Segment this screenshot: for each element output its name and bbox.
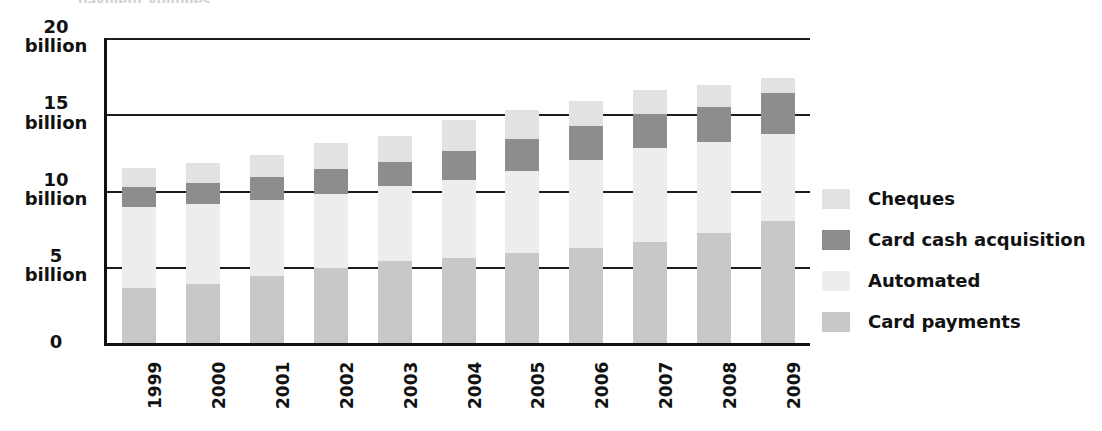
bar-group-2004[interactable] <box>442 120 476 343</box>
bar-segment-card-payments-2004[interactable] <box>442 258 476 343</box>
legend-item-card-cash-acquisition[interactable]: Card cash acquisition <box>822 219 1098 260</box>
bar-segment-cheques-2001[interactable] <box>250 155 284 176</box>
bar-segment-card-cash-acquisition-2001[interactable] <box>250 177 284 200</box>
legend-label-cheques: Cheques <box>868 188 955 209</box>
x-tick-label-text: 2001 <box>275 362 292 409</box>
bar-segment-cheques-2008[interactable] <box>697 85 731 106</box>
bar-segment-cheques-2009[interactable] <box>761 78 795 93</box>
y-tick-label-10: 10billion <box>14 170 98 209</box>
x-tick-label-text: 2007 <box>658 362 675 409</box>
bar-group-1999[interactable] <box>122 168 156 343</box>
bar-segment-cheques-1999[interactable] <box>122 168 156 188</box>
x-tick-label-text: 2005 <box>530 362 547 409</box>
bar-group-2000[interactable] <box>186 163 220 343</box>
x-tick-label-2002: 2002 <box>314 349 348 411</box>
bar-segment-automated-2005[interactable] <box>505 171 539 253</box>
x-tick-label-text: 2008 <box>722 362 739 409</box>
bar-segment-automated-2006[interactable] <box>569 160 603 248</box>
x-tick-label-text: 2002 <box>339 362 356 409</box>
x-tick-label-2007: 2007 <box>633 349 667 411</box>
bar-segment-card-payments-2005[interactable] <box>505 253 539 343</box>
bar-segment-automated-2003[interactable] <box>378 186 412 261</box>
x-tick-label-text: 2009 <box>786 362 803 409</box>
bar-segment-card-payments-2006[interactable] <box>569 248 603 343</box>
y-tick-unit: billion <box>14 113 98 132</box>
legend-item-cheques[interactable]: Cheques <box>822 178 1098 219</box>
y-tick-value: 5 <box>14 246 98 265</box>
legend-swatch-cheques <box>822 189 850 209</box>
bar-group-2007[interactable] <box>633 90 667 343</box>
bar-segment-card-payments-1999[interactable] <box>122 288 156 343</box>
bar-segment-card-cash-acquisition-2005[interactable] <box>505 139 539 171</box>
x-axis-tick-labels: 1999200020012002200320042005200620072008… <box>107 349 810 415</box>
bar-segment-card-cash-acquisition-2009[interactable] <box>761 93 795 134</box>
bar-segment-automated-2007[interactable] <box>633 148 667 243</box>
x-tick-label-2005: 2005 <box>505 349 539 411</box>
bar-segment-card-cash-acquisition-1999[interactable] <box>122 187 156 207</box>
x-tick-label-text: 2004 <box>467 362 484 409</box>
y-tick-label-20: 20billion <box>14 17 98 56</box>
bar-group-2006[interactable] <box>569 101 603 343</box>
bar-segment-cheques-2007[interactable] <box>633 90 667 114</box>
x-tick-label-2000: 2000 <box>186 349 220 411</box>
bar-segment-card-cash-acquisition-2002[interactable] <box>314 169 348 193</box>
bar-segment-card-payments-2008[interactable] <box>697 233 731 343</box>
x-tick-label-text: 2000 <box>211 362 228 409</box>
legend-swatch-automated <box>822 271 850 291</box>
bar-segment-card-payments-2001[interactable] <box>250 276 284 343</box>
bar-segment-card-payments-2000[interactable] <box>186 284 220 343</box>
y-tick-label-5: 5billion <box>14 246 98 285</box>
bar-segment-cheques-2002[interactable] <box>314 143 348 169</box>
bar-group-2008[interactable] <box>697 85 731 343</box>
bar-segment-automated-2000[interactable] <box>186 204 220 283</box>
x-tick-label-2006: 2006 <box>569 349 603 411</box>
bar-group-2005[interactable] <box>505 110 539 343</box>
y-axis-tick-labels: 20billion15billion10billion5billion0 <box>6 38 98 346</box>
y-tick-label-0: 0 <box>14 332 98 351</box>
legend-item-card-payments[interactable]: Card payments <box>822 301 1098 342</box>
bar-segment-automated-2001[interactable] <box>250 200 284 276</box>
y-tick-unit: billion <box>14 36 98 55</box>
y-tick-unit: billion <box>14 265 98 284</box>
bar-group-2001[interactable] <box>250 155 284 343</box>
bar-segment-automated-2004[interactable] <box>442 180 476 258</box>
legend-label-automated: Automated <box>868 270 980 291</box>
bar-segment-cheques-2004[interactable] <box>442 120 476 151</box>
bar-group-2002[interactable] <box>314 143 348 343</box>
legend-item-automated[interactable]: Automated <box>822 260 1098 301</box>
x-tick-label-text: 2003 <box>403 362 420 409</box>
bar-segment-card-cash-acquisition-2004[interactable] <box>442 151 476 180</box>
bar-segment-card-cash-acquisition-2003[interactable] <box>378 162 412 186</box>
bar-segment-cheques-2006[interactable] <box>569 101 603 127</box>
y-tick-value: 20 <box>14 17 98 36</box>
bar-group-2009[interactable] <box>761 78 795 343</box>
y-tick-value: 15 <box>14 93 98 112</box>
bar-segment-card-cash-acquisition-2000[interactable] <box>186 183 220 204</box>
y-tick-unit: billion <box>14 189 98 208</box>
legend-label-card-cash-acquisition: Card cash acquisition <box>868 229 1086 250</box>
bar-segment-cheques-2005[interactable] <box>505 110 539 139</box>
x-tick-label-2001: 2001 <box>250 349 284 411</box>
y-tick-value: 10 <box>14 170 98 189</box>
bar-segment-automated-2008[interactable] <box>697 142 731 234</box>
bar-segment-automated-1999[interactable] <box>122 207 156 288</box>
bar-segment-card-payments-2007[interactable] <box>633 242 667 343</box>
plot-area <box>104 38 810 346</box>
bars-layer <box>107 38 810 343</box>
bar-segment-card-cash-acquisition-2008[interactable] <box>697 107 731 142</box>
bar-segment-card-cash-acquisition-2007[interactable] <box>633 114 667 148</box>
x-tick-label-text: 1999 <box>147 362 164 409</box>
bar-group-2003[interactable] <box>378 136 412 343</box>
bar-segment-automated-2009[interactable] <box>761 134 795 221</box>
bar-segment-cheques-2003[interactable] <box>378 136 412 162</box>
x-tick-label-2003: 2003 <box>378 349 412 411</box>
bar-segment-card-payments-2002[interactable] <box>314 268 348 343</box>
x-tick-label-text: 2006 <box>594 362 611 409</box>
chart-legend: ChequesCard cash acquisitionAutomatedCar… <box>822 178 1098 342</box>
bar-segment-automated-2002[interactable] <box>314 194 348 269</box>
bar-segment-card-cash-acquisition-2006[interactable] <box>569 126 603 160</box>
bar-segment-card-payments-2003[interactable] <box>378 261 412 343</box>
bar-segment-card-payments-2009[interactable] <box>761 221 795 343</box>
legend-label-card-payments: Card payments <box>868 311 1021 332</box>
bar-segment-cheques-2000[interactable] <box>186 163 220 183</box>
